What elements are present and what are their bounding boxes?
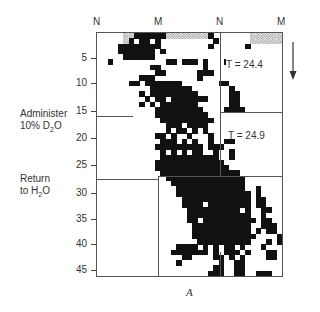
y-tick-label-45: 45 [65,264,87,275]
filled-cell [245,239,251,245]
t-value-lower: T = 24.9 [228,130,265,141]
divider-vertical-right-lower [220,252,221,276]
filled-cell [203,250,209,256]
filled-cell [208,118,214,124]
administer-line1: Administer [20,108,67,120]
return-line1: Return [20,173,50,185]
filled-cell [266,271,272,277]
filled-cell [134,81,140,87]
y-tick-label-15: 15 [65,105,87,116]
divider-vertical-right-upper [220,33,221,176]
filled-cell [245,250,251,256]
return-h2o-label: Return to H2O [20,173,50,201]
filled-cell [160,49,166,55]
filled-cell [229,155,235,161]
filled-cell [203,96,209,102]
column-header-m-left: M [154,16,162,27]
filled-cell [208,44,214,50]
y-tick-label-10: 10 [65,77,87,88]
filled-cell [250,234,256,240]
administer-d2o-label: Administer 10% D2O [20,108,67,136]
y-tick-label-25: 25 [65,159,87,170]
divider-horizontal-right-upper [220,112,282,113]
filled-cell [240,271,246,277]
column-header-n-right: N [216,16,223,27]
filled-cell [171,59,177,65]
filled-cell [160,70,166,76]
y-tick-label-35: 35 [65,213,87,224]
t-value-upper: T = 24.4 [226,59,263,70]
y-tick-label-40: 40 [65,238,87,249]
filled-cell [213,38,219,44]
filled-cell [250,218,256,224]
administer-line2: 10% D2O [20,120,67,136]
divider-horizontal-left-lower [97,179,158,180]
filled-cell [150,54,156,60]
y-tick-label-30: 30 [65,187,87,198]
divider-horizontal-right-lower [158,176,282,177]
filled-cell [208,70,214,76]
divider-vertical-middle-lower [158,176,159,276]
filled-cell [277,239,283,245]
filled-cell [197,75,203,81]
filled-cell [245,44,251,50]
filled-cell [266,239,272,245]
filled-cell [256,228,262,234]
filled-cell [192,128,198,134]
filled-cell [176,260,182,266]
filled-cell [266,207,272,213]
y-tick-label-5: 5 [65,52,87,63]
down-arrow-icon [288,42,298,82]
filled-cell [187,255,193,261]
y-tick-label-20: 20 [65,132,87,143]
filled-cell [108,59,114,65]
filled-cell [139,102,145,108]
column-header-m-right: M [277,16,285,27]
return-line2: to H2O [20,185,50,201]
hatched-cell [277,38,283,44]
panel-label: A [186,286,193,298]
filled-cell [192,59,198,65]
column-header-n-left: N [93,16,100,27]
filled-cell [271,255,277,261]
divider-horizontal-left-upper [97,116,133,117]
